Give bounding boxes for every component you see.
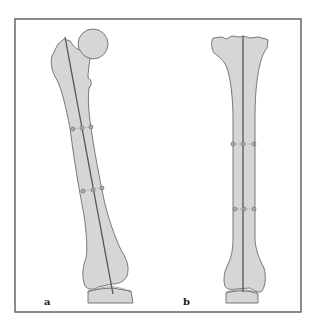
femur-marker-2-center	[91, 188, 95, 192]
panel-label-b: b	[183, 296, 190, 307]
tibia-marker-1-lateral	[231, 142, 235, 146]
femur-marker-2-lateral	[81, 189, 85, 193]
tibia-marker-2-center	[242, 207, 246, 211]
tibia-marker-2-lateral	[233, 207, 237, 211]
tibia-shaft	[212, 36, 268, 292]
bone-axis-diagram: a b	[0, 0, 316, 324]
tibia-marker-1-medial	[252, 142, 256, 146]
femur-marker-1-lateral	[71, 127, 75, 131]
tibia-marker-2-medial	[252, 207, 256, 211]
panel-a-femur: a	[44, 29, 133, 307]
panel-b-tibia: b	[183, 36, 268, 307]
talus	[226, 291, 258, 303]
femur-shaft	[51, 39, 128, 289]
femur-marker-2-medial	[100, 186, 104, 190]
femur-marker-1-medial	[89, 125, 93, 129]
tibia-marker-1-center	[241, 142, 245, 146]
femur-marker-1-center	[80, 126, 84, 130]
panel-label-a: a	[44, 296, 51, 307]
